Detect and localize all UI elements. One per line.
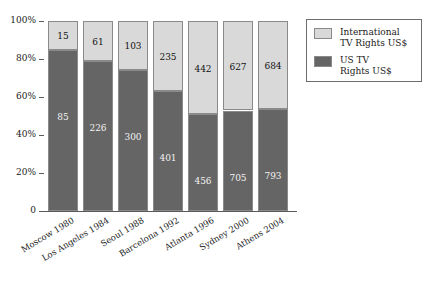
y-tick-label: 80%: [16, 54, 36, 63]
bar-value-label-us: 793: [259, 171, 287, 181]
y-tick-label: 40%: [16, 130, 36, 139]
bar-value-label-us: 456: [189, 176, 217, 186]
x-axis-line: [44, 211, 297, 212]
bar-segment-us[interactable]: 705: [223, 111, 253, 212]
bar-segment-international[interactable]: 15: [48, 21, 78, 50]
bar-group[interactable]: 103300: [118, 21, 148, 211]
bar-value-label-us: 401: [154, 153, 182, 163]
bar-segment-us[interactable]: 401: [153, 91, 183, 211]
bar-segment-us[interactable]: 300: [118, 70, 148, 211]
bar-value-label-us: 226: [84, 123, 112, 133]
bar-segment-us[interactable]: 456: [188, 114, 218, 211]
y-tick-mark: [39, 211, 44, 212]
legend-item-international[interactable]: International TV Rights US$: [314, 27, 407, 49]
bar-value-label-international: 15: [49, 31, 77, 41]
bar-value-label-us: 85: [49, 112, 77, 122]
bar-value-label-international: 235: [154, 52, 182, 62]
bar-segment-us[interactable]: 793: [258, 109, 288, 211]
bar-segment-international[interactable]: 103: [118, 21, 148, 70]
bar-value-label-us: 705: [224, 173, 252, 183]
bar-group[interactable]: 61226: [83, 21, 113, 211]
bar-value-label-international: 627: [224, 62, 252, 72]
bar-group[interactable]: 1585: [48, 21, 78, 211]
legend-label-us: US TV Rights US$: [340, 55, 392, 77]
bar-segment-international[interactable]: 684: [258, 21, 288, 109]
y-tick-label: 100%: [10, 16, 36, 25]
legend: International TV Rights US$ US TV Rights…: [306, 19, 422, 82]
legend-item-us[interactable]: US TV Rights US$: [314, 55, 392, 77]
legend-swatch-us-icon: [314, 56, 332, 67]
bar-segment-international[interactable]: 442: [188, 21, 218, 114]
bar-segment-us[interactable]: 85: [48, 50, 78, 212]
bar-value-label-international: 684: [259, 61, 287, 71]
bar-value-label-international: 103: [119, 41, 147, 51]
bar-value-label-international: 61: [84, 37, 112, 47]
legend-label-international: International TV Rights US$: [340, 27, 407, 49]
bar-group[interactable]: 684793: [258, 21, 288, 211]
y-tick-label: 0: [30, 206, 36, 215]
bar-group[interactable]: 235401: [153, 21, 183, 211]
bar-value-label-us: 300: [119, 132, 147, 142]
bar-segment-international[interactable]: 61: [83, 21, 113, 61]
y-tick-label: 60%: [16, 92, 36, 101]
stacked-bar-chart: 100%80%60%40%20%0 1585612261033002354014…: [0, 0, 429, 295]
bar-segment-international[interactable]: 627: [223, 21, 253, 110]
plot-area: 158561226103300235401442456627705684793: [44, 21, 296, 211]
bar-group[interactable]: 627705: [223, 21, 253, 211]
legend-swatch-international-icon: [314, 28, 332, 39]
bar-value-label-international: 442: [189, 64, 217, 74]
bar-group[interactable]: 442456: [188, 21, 218, 211]
bar-segment-us[interactable]: 226: [83, 61, 113, 211]
bar-segment-international[interactable]: 235: [153, 21, 183, 91]
y-tick-label: 20%: [16, 168, 36, 177]
